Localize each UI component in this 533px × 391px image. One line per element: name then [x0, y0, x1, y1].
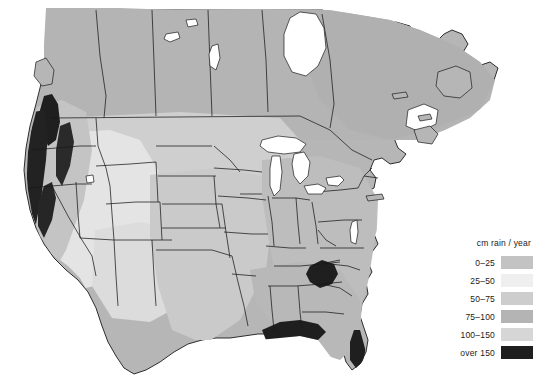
- legend-title: cm rain / year: [447, 238, 533, 248]
- legend: cm rain / year 0–25 25–50 50–75 75–100 1…: [447, 238, 533, 364]
- legend-swatch-2: [501, 292, 533, 305]
- legend-swatch-4: [501, 328, 533, 341]
- legend-swatch-1: [501, 274, 533, 287]
- legend-row-2: 50–75: [447, 292, 533, 305]
- legend-label-2: 50–75: [470, 294, 501, 304]
- legend-label-3: 75–100: [465, 312, 501, 322]
- legend-row-3: 75–100: [447, 310, 533, 323]
- legend-label-4: 100–150: [461, 330, 502, 340]
- legend-row-0: 0–25: [447, 256, 533, 269]
- legend-label-1: 25–50: [470, 276, 501, 286]
- legend-swatch-0: [501, 256, 533, 269]
- precipitation-map-figure: cm rain / year 0–25 25–50 50–75 75–100 1…: [0, 0, 533, 391]
- lake-michigan: [270, 156, 282, 196]
- great-salt-lake: [86, 175, 94, 183]
- legend-row-1: 25–50: [447, 274, 533, 287]
- legend-row-4: 100–150: [447, 328, 533, 341]
- legend-swatch-5: [501, 346, 533, 359]
- legend-label-0: 0–25: [475, 258, 501, 268]
- legend-row-5: over 150: [447, 346, 533, 359]
- legend-swatch-3: [501, 310, 533, 323]
- legend-label-5: over 150: [460, 348, 501, 358]
